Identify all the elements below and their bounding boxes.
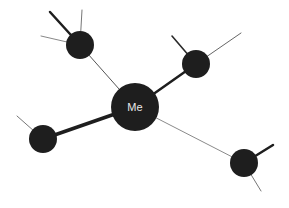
center-node-label: Me: [127, 101, 142, 113]
node-top-left: [66, 31, 94, 59]
node-upper-right: [182, 50, 210, 78]
node-lower-right: [230, 149, 258, 177]
center-node-group: Me: [111, 83, 159, 131]
network-diagram: Me: [0, 0, 289, 208]
node-left: [29, 125, 57, 153]
